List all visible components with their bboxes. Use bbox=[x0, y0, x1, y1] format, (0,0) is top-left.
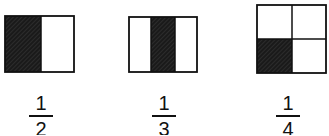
numerator: 1 bbox=[21, 93, 61, 113]
denominator: 3 bbox=[144, 119, 184, 136]
numerator: 1 bbox=[268, 93, 308, 113]
quarter-shaded-part bbox=[257, 39, 292, 73]
figure-half bbox=[5, 16, 74, 72]
fraction-label-half: 1 2 bbox=[21, 93, 61, 135]
denominator: 2 bbox=[21, 119, 61, 136]
numerator: 1 bbox=[144, 93, 184, 113]
figure-quarter bbox=[257, 5, 326, 73]
fraction-bar bbox=[276, 115, 300, 117]
third-shaded-part bbox=[151, 17, 175, 72]
figure-third bbox=[129, 17, 197, 72]
fraction-label-quarter: 1 4 bbox=[268, 93, 308, 135]
fraction-bar bbox=[29, 115, 53, 117]
half-shaded-part bbox=[5, 16, 41, 72]
fraction-label-third: 1 3 bbox=[144, 93, 184, 135]
fraction-bar bbox=[152, 115, 176, 117]
denominator: 4 bbox=[268, 119, 308, 136]
